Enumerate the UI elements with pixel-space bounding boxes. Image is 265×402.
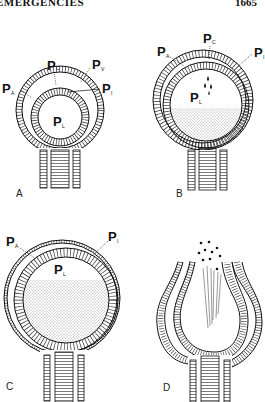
svg-text:L: L <box>199 99 202 105</box>
panel-d: D <box>157 241 262 402</box>
panel-b: PC PA PI PL B <box>153 31 264 199</box>
svg-text:L: L <box>62 123 65 129</box>
svg-text:P: P <box>254 45 263 60</box>
panel-c: PA PI PL C <box>4 229 120 402</box>
svg-text:V: V <box>101 66 105 72</box>
panel-letter-c: C <box>6 381 13 392</box>
svg-text:P: P <box>2 81 11 96</box>
svg-text:P: P <box>190 90 199 105</box>
alveolus-pressure-figure: PC PV PA PI PL A PC PA PI PL B <box>0 0 265 402</box>
panel-letter-a: A <box>16 188 23 199</box>
svg-text:P: P <box>108 229 117 244</box>
svg-text:P: P <box>157 44 166 59</box>
svg-text:P: P <box>92 57 101 72</box>
svg-text:I: I <box>117 238 118 244</box>
svg-text:A: A <box>166 53 170 59</box>
svg-text:P: P <box>53 114 62 129</box>
svg-text:P: P <box>47 58 56 73</box>
svg-text:A: A <box>11 90 15 96</box>
svg-text:I: I <box>111 90 112 96</box>
svg-text:A: A <box>15 243 19 249</box>
svg-text:C: C <box>212 39 216 45</box>
svg-text:I: I <box>263 54 264 60</box>
svg-text:P: P <box>54 262 63 277</box>
svg-text:P: P <box>102 81 111 96</box>
svg-text:C: C <box>56 65 60 71</box>
panel-letter-b: B <box>176 188 183 199</box>
panel-letter-d: D <box>163 382 170 393</box>
svg-text:P: P <box>6 234 15 249</box>
svg-text:P: P <box>203 31 212 46</box>
panel-a: PC PV PA PI PL A <box>2 57 112 199</box>
svg-text:L: L <box>63 271 66 277</box>
